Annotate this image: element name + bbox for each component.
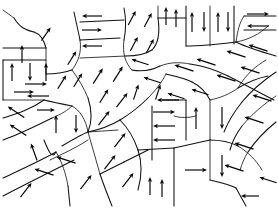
figure-background — [0, 0, 278, 210]
domain-structure-canvas — [0, 0, 278, 210]
magnetic-domain-figure — [0, 0, 278, 210]
